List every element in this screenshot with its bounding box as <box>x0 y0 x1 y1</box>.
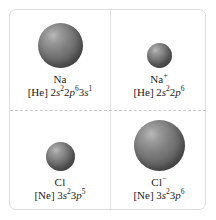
sphere-cl <box>46 142 75 171</box>
horizontal-dashed-divider <box>10 110 206 111</box>
labels-cl-anion: Cl− [Ne] 3s23p6 <box>133 174 184 202</box>
sphere-na <box>38 23 83 68</box>
labels-na-cation: Na+ [He] 2s22p6 <box>133 71 184 99</box>
cell-bottom-right: Cl− [Ne] 3s23p6 <box>110 119 208 202</box>
labels-cl: Cl [Ne] 3s23p5 <box>34 174 85 202</box>
species-symbol-na-cation: Na <box>150 73 163 85</box>
sphere-area-cl-anion <box>110 119 208 171</box>
config-electrons-na-2: 1 <box>89 84 93 93</box>
species-symbol-na: Na <box>53 73 66 85</box>
species-label-na-cation: Na+ <box>133 71 184 86</box>
species-charge-na-cation: + <box>163 71 168 80</box>
config-na-cation: [He] 2s22p6 <box>133 86 184 99</box>
cell-top-right: Na+ [He] 2s22p6 <box>110 18 208 99</box>
config-core-na-cation: [He] <box>133 86 153 98</box>
config-core-na: [He] <box>28 86 48 98</box>
config-electrons-clan-1: 6 <box>181 187 185 196</box>
species-label-cl-anion: Cl− <box>133 174 184 189</box>
species-symbol-cl: Cl <box>55 176 66 188</box>
sphere-area-na <box>11 18 109 68</box>
config-electrons-cl-1: 5 <box>82 187 86 196</box>
species-symbol-cl-anion: Cl <box>151 176 162 188</box>
species-charge-cl-anion: − <box>162 174 167 183</box>
sphere-area-na-cation <box>110 18 208 68</box>
sphere-cl-anion <box>134 120 185 171</box>
config-core-cl-anion: [Ne] <box>133 189 153 201</box>
config-na: [He] 2s22p63s1 <box>28 86 93 99</box>
sphere-na-cation <box>147 43 172 68</box>
labels-na: Na [He] 2s22p63s1 <box>28 71 93 99</box>
atomic-ionic-radii-figure: Na [He] 2s22p63s1 Na+ [He] 2s22p6 Cl [Ne… <box>0 0 216 220</box>
cell-top-left: Na [He] 2s22p63s1 <box>11 18 109 99</box>
config-cl-anion: [Ne] 3s23p6 <box>133 189 184 202</box>
sphere-area-cl <box>11 119 109 171</box>
config-core-cl: [Ne] <box>34 189 54 201</box>
species-label-cl: Cl <box>34 174 85 189</box>
config-electrons-nacat-1: 6 <box>181 84 185 93</box>
cell-bottom-left: Cl [Ne] 3s23p5 <box>11 119 109 202</box>
config-cl: [Ne] 3s23p5 <box>34 189 85 202</box>
